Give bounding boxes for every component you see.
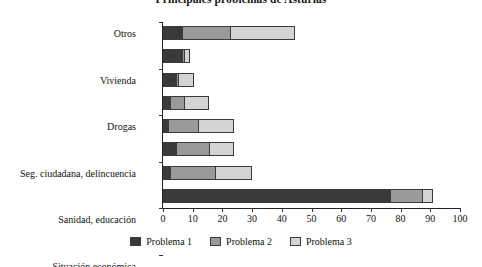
x-axis-tick	[371, 208, 372, 212]
x-axis-tick	[460, 208, 461, 212]
category-label: Sanidad, educación	[58, 208, 136, 231]
legend-item-3[interactable]: Problema 3	[290, 236, 352, 247]
x-axis-tick-label: 0	[161, 213, 166, 224]
x-axis-tick-label: 30	[247, 213, 257, 224]
x-axis-tick-label: 20	[217, 213, 227, 224]
bar-segment-series-3	[179, 74, 193, 86]
x-axis-tick	[312, 208, 313, 212]
stacked-bar	[163, 96, 209, 110]
bar-row: Sanidad, educación	[163, 115, 460, 138]
bar-segment-series-1	[164, 190, 391, 202]
x-axis-tick-label: 60	[336, 213, 346, 224]
bar-chart: Principales problemas de Asturias OtrosV…	[0, 0, 482, 267]
legend-item-1[interactable]: Problema 1	[130, 236, 192, 247]
stacked-bar	[163, 189, 433, 203]
bar-segment-series-3	[216, 167, 251, 179]
category-label: Situación económica	[52, 255, 136, 267]
stacked-bar	[163, 26, 295, 40]
stacked-bar	[163, 142, 234, 156]
stacked-bar	[163, 119, 234, 133]
category-label: Seg. ciudadana, delincuencia	[20, 162, 136, 185]
legend-swatch-icon	[210, 237, 221, 246]
x-axis-tick	[401, 208, 402, 212]
bar-segment-series-3	[423, 190, 432, 202]
bar-row: Vivienda	[163, 45, 460, 68]
bar-row: Situación económica	[163, 138, 460, 161]
bar-segment-series-3	[185, 97, 208, 109]
x-axis-tick-label: 100	[453, 213, 468, 224]
legend-item-2[interactable]: Problema 2	[210, 236, 272, 247]
bar-segment-series-2	[171, 97, 185, 109]
chart-legend: Problema 1Problema 2Problema 3	[0, 236, 482, 247]
x-axis-tick	[163, 208, 164, 212]
bar-segment-series-2	[171, 167, 216, 179]
bar-row: Seg. ciudadana, delincuencia	[163, 92, 460, 115]
stacked-bar	[163, 49, 190, 63]
bar-row: Otros	[163, 22, 460, 45]
x-axis-tick-label: 40	[277, 213, 287, 224]
bar-segment-series-1	[164, 50, 183, 62]
bar-row: Paro	[163, 185, 460, 208]
stacked-bar	[163, 166, 252, 180]
bar-segment-series-2	[183, 27, 231, 39]
x-axis-tick	[252, 208, 253, 212]
bar-segment-series-2	[169, 120, 199, 132]
legend-label: Problema 1	[146, 236, 192, 247]
bar-segment-series-2	[177, 143, 210, 155]
x-axis-tick	[193, 208, 194, 212]
bar-row: Transporte, obras públicas	[163, 162, 460, 185]
legend-label: Problema 3	[306, 236, 352, 247]
bar-segment-series-1	[164, 27, 183, 39]
x-axis-tick-label: 50	[307, 213, 317, 224]
plot-area: OtrosViviendaDrogasSeg. ciudadana, delin…	[163, 22, 460, 208]
y-axis-tick	[159, 22, 163, 23]
x-axis-tick-label: 80	[396, 213, 406, 224]
x-axis-tick-label: 90	[425, 213, 435, 224]
category-label: Otros	[114, 22, 136, 45]
x-axis-tick	[222, 208, 223, 212]
bar-segment-series-3	[210, 143, 233, 155]
bar-segment-series-3	[199, 120, 234, 132]
bar-segment-series-1	[164, 97, 171, 109]
x-axis-tick-label: 70	[366, 213, 376, 224]
legend-label: Problema 2	[226, 236, 272, 247]
bar-segment-series-1	[164, 167, 171, 179]
bar-row: Drogas	[163, 69, 460, 92]
legend-swatch-icon	[130, 237, 141, 246]
bar-segment-series-3	[185, 50, 189, 62]
x-axis-tick	[430, 208, 431, 212]
bar-segment-series-1	[164, 143, 177, 155]
category-label: Vivienda	[100, 69, 136, 92]
stacked-bar	[163, 73, 194, 87]
x-axis-tick-label: 10	[188, 213, 198, 224]
x-axis-tick	[341, 208, 342, 212]
category-label: Drogas	[107, 115, 136, 138]
chart-title: Principales problemas de Asturias	[0, 0, 482, 5]
bar-segment-series-2	[391, 190, 423, 202]
y-axis-tick	[159, 255, 163, 256]
legend-swatch-icon	[290, 237, 301, 246]
bar-segment-series-1	[164, 74, 177, 86]
bar-segment-series-3	[231, 27, 294, 39]
x-axis-tick	[282, 208, 283, 212]
